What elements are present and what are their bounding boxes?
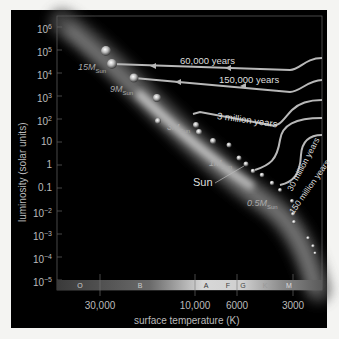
x-axis-label: surface temperature (K) <box>134 315 240 326</box>
spectral-class-m: M <box>286 282 292 289</box>
x-tick-30000: 30,000 <box>85 300 116 311</box>
track-label-150000-years: 150,000 years <box>219 74 279 85</box>
y-tick-1e4: 104 <box>22 68 52 81</box>
spectral-class-b: B <box>138 282 143 289</box>
sun-label: Sun <box>193 176 213 188</box>
mass-label-15: 15MSun <box>78 62 106 74</box>
y-tick-1e3: 103 <box>22 91 52 104</box>
x-tick-6000: 6000 <box>226 300 248 311</box>
spectral-class-bar <box>57 280 322 290</box>
x-tick-10000: 10,000 <box>180 300 211 311</box>
spectral-class-o: O <box>77 282 82 289</box>
mass-label-9: 9MSun <box>110 84 133 96</box>
track-label-60000-years: 60,000 years <box>180 55 235 66</box>
y-tick-1e5: 105 <box>22 45 52 58</box>
spectral-class-f: F <box>226 282 230 289</box>
spectral-class-k: K <box>263 282 268 289</box>
y-tick-1e-4: 10−4 <box>22 252 52 265</box>
y-tick-1e6: 106 <box>22 22 52 35</box>
y-tick-marks <box>57 27 62 280</box>
y-axis-label: luminosity (solar units) <box>17 123 28 222</box>
mass-label-1: 1MSun <box>209 158 232 170</box>
spectral-class-a: A <box>204 282 209 289</box>
mass-label-3: 3MSun <box>167 122 190 134</box>
sun-star <box>244 162 249 167</box>
y-tick-1e-5: 10−5 <box>22 275 52 288</box>
x-tick-3000: 3000 <box>282 300 304 311</box>
spectral-class-g: G <box>240 282 245 289</box>
y-tick-1e-3: 10−3 <box>22 229 52 242</box>
mass-label-0-5: 0.5MSun <box>247 198 278 210</box>
